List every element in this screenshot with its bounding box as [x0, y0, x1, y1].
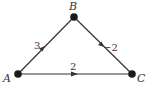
node-label-b: B: [68, 0, 77, 13]
arrow-icon: [71, 72, 78, 77]
edge-a-b: [18, 17, 74, 74]
graph-canvas: A B C 3 −2 2: [0, 0, 148, 94]
weight-label-a-c: 2: [70, 61, 76, 72]
node-c: [128, 70, 136, 78]
edge-a-c: [18, 72, 132, 77]
weight-label-a-b: 3: [34, 40, 40, 51]
node-a: [14, 70, 22, 78]
weight-label-b-c: −2: [103, 42, 118, 53]
node-label-a: A: [2, 72, 11, 85]
node-b: [70, 13, 78, 21]
node-label-c: C: [137, 72, 146, 85]
